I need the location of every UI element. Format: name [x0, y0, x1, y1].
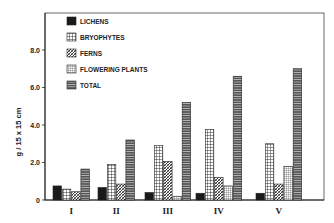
- bar-bryophytes-IV: [205, 130, 214, 200]
- bar-lichens-I: [53, 186, 62, 200]
- category-labels: IIIIIIIVV: [69, 206, 282, 216]
- legend-label: FERNS: [80, 50, 103, 57]
- y-tick-label: 8.0: [30, 47, 40, 54]
- legend-swatch-bryophytes: [67, 33, 76, 41]
- legend: LICHENSBRYOPHYTESFERNSFLOWERING PLANTSTO…: [67, 17, 148, 89]
- bar-lichens-II: [98, 187, 107, 200]
- y-ticks: 02.04.06.08.0: [30, 47, 45, 204]
- bar-total-I: [81, 169, 90, 200]
- bar-flowering-plants-IV: [224, 186, 233, 200]
- y-axis-label: g / 15 x 15 cm: [14, 107, 23, 156]
- bar-total-V: [293, 69, 302, 200]
- bar-total-III: [182, 103, 191, 201]
- category-label: III: [163, 206, 174, 216]
- bar-ferns-IV: [215, 178, 224, 201]
- bar-total-IV: [233, 76, 242, 200]
- legend-swatch-flowering-plants: [67, 65, 76, 73]
- bar-flowering-plants-V: [284, 166, 293, 200]
- bar-bryophytes-V: [265, 144, 274, 200]
- category-label: IV: [214, 206, 225, 216]
- bar-ferns-I: [72, 192, 81, 200]
- legend-swatch-lichens: [67, 17, 76, 25]
- legend-swatch-ferns: [67, 49, 76, 57]
- bar-bryophytes-III: [154, 146, 163, 200]
- bar-total-II: [126, 140, 134, 200]
- bar-lichens-III: [145, 193, 154, 201]
- bar-flowering-plants-III: [173, 196, 182, 200]
- legend-swatch-total: [67, 81, 76, 89]
- legend-label: TOTAL: [80, 82, 101, 89]
- y-tick-label: 6.0: [30, 84, 40, 91]
- bar-bryophytes-II: [107, 164, 116, 200]
- y-tick-label: 4.0: [30, 122, 40, 129]
- category-label: I: [69, 206, 73, 216]
- y-tick-label: 0: [36, 197, 40, 204]
- bar-chart: g / 15 x 15 cm 02.04.06.08.0 IIIIIIIVV L…: [0, 0, 334, 223]
- y-tick-label: 2.0: [30, 159, 40, 166]
- bar-lichens-IV: [196, 193, 205, 200]
- bar-lichens-V: [256, 193, 265, 200]
- bar-ferns-II: [117, 184, 126, 200]
- bar-ferns-V: [275, 184, 284, 200]
- legend-label: BRYOPHYTES: [80, 34, 125, 41]
- legend-label: LICHENS: [80, 18, 109, 25]
- bar-bryophytes-I: [62, 189, 71, 200]
- category-label: V: [276, 206, 283, 216]
- category-label: II: [113, 206, 121, 216]
- legend-label: FLOWERING PLANTS: [80, 66, 148, 73]
- bar-ferns-III: [164, 162, 173, 200]
